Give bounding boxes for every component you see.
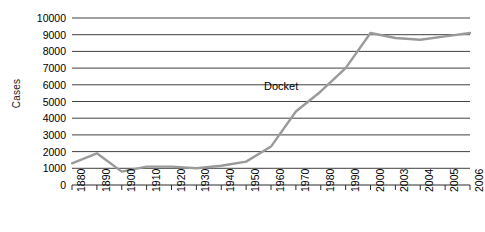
x-axis-tick-label: 2000 xyxy=(375,169,386,192)
x-axis-tick-label: 1910 xyxy=(151,169,162,192)
plot-svg xyxy=(72,18,470,185)
series-lines xyxy=(72,33,470,172)
x-axis-tick-label: 1940 xyxy=(225,169,236,192)
y-axis-tick-label: 5000 xyxy=(18,96,66,107)
x-axis-tick-label: 1920 xyxy=(176,169,187,192)
x-axis-tick-label: 1900 xyxy=(126,169,137,192)
series-label-docket: Docket xyxy=(264,80,298,92)
y-axis-tick-label: 7000 xyxy=(18,63,66,74)
x-axis-tick-label: 2003 xyxy=(399,169,410,192)
x-axis-tick-label: 1890 xyxy=(101,169,112,192)
x-axis-tick-label: 1960 xyxy=(275,169,286,192)
y-axis-tick-label: 1000 xyxy=(18,163,66,174)
x-axis-tick-label: 1990 xyxy=(350,169,361,192)
x-axis-tick-label: 2004 xyxy=(424,169,435,192)
x-axis-tick-label: 1930 xyxy=(200,169,211,192)
series-line-docket xyxy=(72,33,470,172)
x-axis-tick-label: 1950 xyxy=(250,169,261,192)
x-axis-tick-label: 1880 xyxy=(76,169,87,192)
x-axis-tick-label: 2005 xyxy=(449,169,460,192)
y-axis-tick-labels: 1000090008000700060005000400030002000100… xyxy=(18,0,66,229)
y-axis-tick-label: 8000 xyxy=(18,46,66,57)
plot-area xyxy=(72,18,470,185)
y-axis-tick-label: 2000 xyxy=(18,146,66,157)
x-axis-tick-label: 2006 xyxy=(474,169,485,192)
y-axis-tick-label: 4000 xyxy=(18,113,66,124)
y-axis-tick-label: 9000 xyxy=(18,29,66,40)
y-axis-tick-label: 10000 xyxy=(18,13,66,24)
x-axis-tick-labels: 1880189019001910192019301940195019601970… xyxy=(72,192,470,232)
x-axis-tick-label: 1980 xyxy=(325,169,336,192)
y-axis-tick-label: 6000 xyxy=(18,80,66,91)
y-axis-tick-label: 3000 xyxy=(18,130,66,141)
y-axis-tick-label: 0 xyxy=(18,180,66,191)
x-axis-tick-label: 1970 xyxy=(300,169,311,192)
